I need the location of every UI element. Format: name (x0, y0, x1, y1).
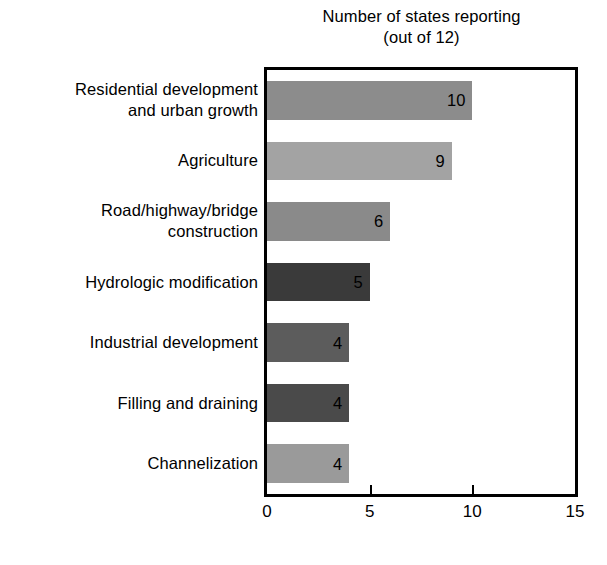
bar-row: 4 (267, 384, 575, 422)
bar-row: 9 (267, 142, 575, 180)
category-axis-labels: Residential development and urban growth… (0, 67, 258, 497)
bar-value-label: 6 (363, 213, 383, 230)
category-label: Channelization (0, 453, 258, 474)
category-label: Road/highway/bridge construction (0, 200, 258, 242)
bar-row: 4 (267, 444, 575, 482)
bar-value-label: 4 (322, 334, 342, 351)
category-label: Industrial development (0, 332, 258, 353)
bar-value-label: 4 (322, 395, 342, 412)
x-axis-tick-label: 10 (452, 502, 492, 522)
x-axis-tick-label: 5 (350, 502, 390, 522)
category-label: Filling and draining (0, 393, 258, 414)
chart-title-line-2: (out of 12) (264, 27, 579, 48)
bar-row: 10 (267, 81, 575, 119)
x-axis-tick-label: 0 (247, 502, 287, 522)
bar-value-label: 9 (425, 153, 445, 170)
bar-chart-figure: Number of states reporting (out of 12) R… (0, 0, 607, 565)
plot-inner: 10965444 (267, 70, 575, 494)
bar-value-label: 10 (445, 92, 465, 109)
category-label: Hydrologic modification (0, 272, 258, 293)
x-axis-tick (472, 485, 474, 494)
bar-value-label: 5 (343, 274, 363, 291)
bar[interactable] (267, 81, 472, 119)
x-axis-tick-label: 15 (555, 502, 595, 522)
category-label: Residential development and urban growth (0, 79, 258, 121)
bar-row: 6 (267, 202, 575, 240)
bar-value-label: 4 (322, 455, 342, 472)
x-axis-tick (370, 485, 372, 494)
category-label: Agriculture (0, 150, 258, 171)
bar-row: 5 (267, 263, 575, 301)
plot-area: 10965444 (264, 67, 578, 497)
chart-title: Number of states reporting (out of 12) (264, 6, 579, 48)
bar-row: 4 (267, 323, 575, 361)
chart-title-line-1: Number of states reporting (264, 6, 579, 27)
